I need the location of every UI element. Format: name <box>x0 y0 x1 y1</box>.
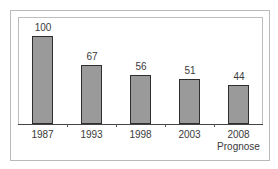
x-tick-label: 2003 <box>165 129 214 141</box>
bar <box>228 85 249 124</box>
x-tick-label: 2008Prognose <box>214 129 263 153</box>
bar <box>32 36 53 124</box>
x-tick-label: 1993 <box>67 129 116 141</box>
bar <box>81 65 102 124</box>
x-axis-tick <box>116 124 117 127</box>
data-label: 67 <box>72 51 112 62</box>
data-label: 100 <box>23 22 63 33</box>
bar <box>130 75 151 124</box>
x-tick-label: 1987 <box>18 129 67 141</box>
x-axis-tick <box>214 124 215 127</box>
x-axis-tick <box>165 124 166 127</box>
x-tick-label: 1998 <box>116 129 165 141</box>
bar <box>179 79 200 124</box>
x-axis-line <box>18 124 263 125</box>
x-axis-tick <box>67 124 68 127</box>
data-label: 51 <box>170 65 210 76</box>
data-label: 44 <box>219 71 259 82</box>
data-label: 56 <box>121 61 161 72</box>
